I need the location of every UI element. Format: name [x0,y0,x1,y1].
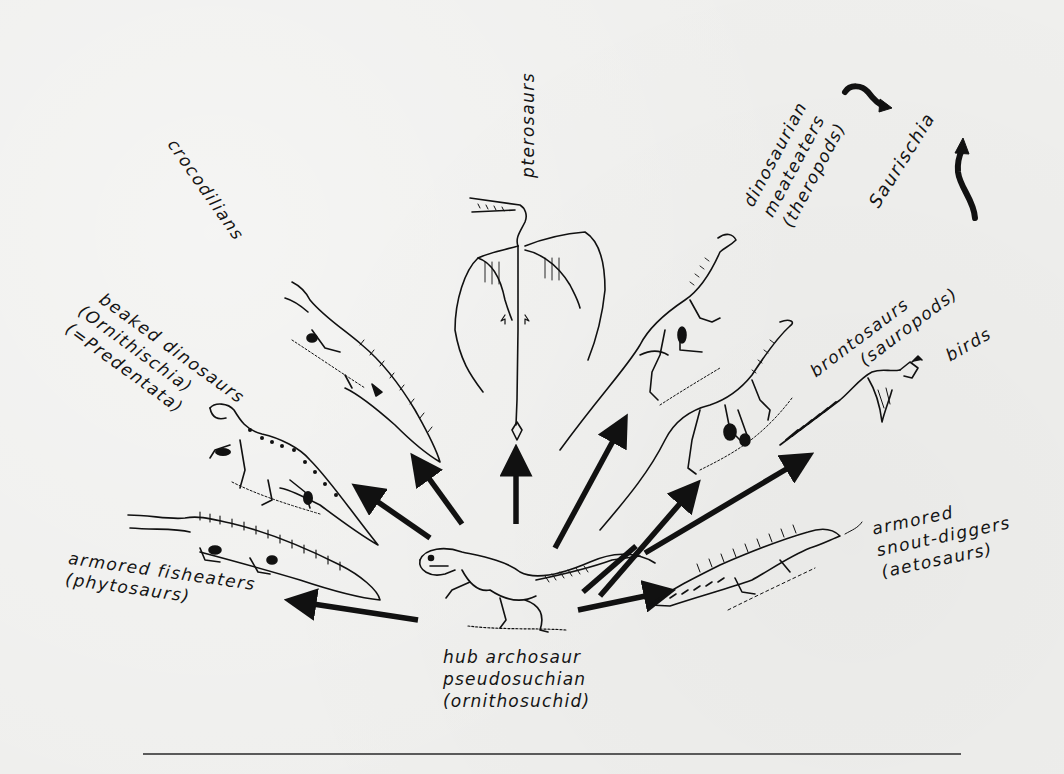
crocodilian-illustration [285,282,440,462]
curved-arrow-theropods [845,86,884,106]
theropod-illustration [560,234,736,450]
bottom-rule [143,753,961,755]
arrow-to-theropods [555,428,620,548]
arrow-to-phytosaurs [300,602,418,620]
label-pterosaurs: pterosaurs [518,72,539,178]
arrow-to-crocodilians [420,466,462,524]
aetosaur-illustration [650,522,862,610]
arrow-to-birds [645,461,800,553]
arrow-to-aetosaurs [578,593,660,610]
pterosaur-illustration [455,198,605,440]
label-hub-archosaur: hub archosaur pseudosuchian (ornithosuch… [443,646,590,712]
arrow-to-sauropods [600,492,690,596]
curved-arrow-sauropods [958,150,975,218]
arrow-to-ornithischia [365,493,430,538]
